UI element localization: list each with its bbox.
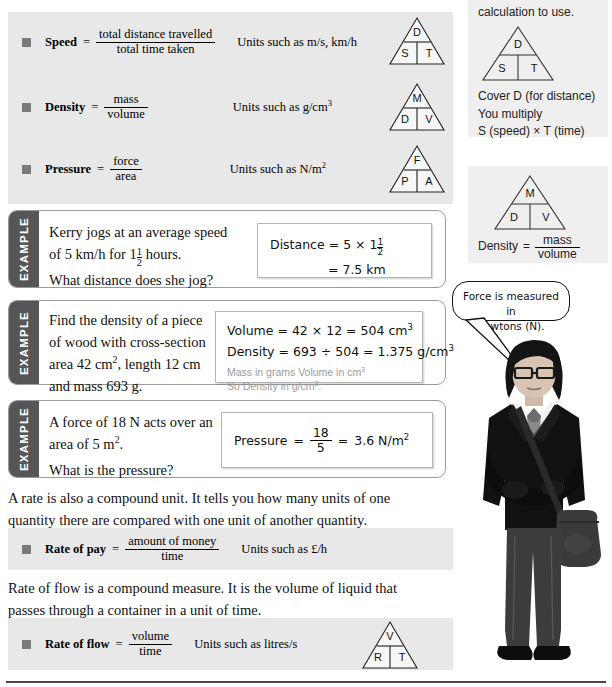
speech-bubble-line1: Force is measured in <box>462 289 560 319</box>
note-text: Mass in grams Volume in cm <box>227 366 361 378</box>
sidebar-note-line2: You multiply <box>478 106 598 123</box>
triangle-label-left: R <box>369 651 387 663</box>
answer-density-text: Density = 693 ÷ 504 = 1.375 g/cm <box>227 345 448 360</box>
answer-result-text: 3.6 N/m <box>354 433 404 448</box>
formula-name-speed: Speed <box>45 35 77 50</box>
equals-sign: = <box>83 35 90 50</box>
question-line-post: . <box>120 436 124 452</box>
triangle-label-right: V <box>420 113 438 125</box>
units-pressure-text: Units such as N/m <box>230 163 322 177</box>
fraction-denominator: 2 <box>377 247 383 257</box>
formula-row-speed: Speed = total distance travelled total t… <box>22 18 442 66</box>
formula-name-rate-of-pay: Rate of pay <box>45 542 106 557</box>
sidebar-hint-speed: calculation to use. D S T Cover D (for d… <box>468 0 608 137</box>
question-line: Kerry jogs at an average speed <box>49 221 249 243</box>
sidebar-hint-density: M D V Density = mass volume <box>468 166 608 263</box>
example-tab-label: EXAMPLE <box>18 217 30 281</box>
formula-fraction-rate-of-pay: amount of money time <box>125 535 219 562</box>
answer-exponent: 3 <box>407 322 412 332</box>
example-block-pressure: EXAMPLE A force of 18 N acts over an are… <box>8 400 446 478</box>
example-answer-pressure: Pressure = 18 5 = 3.6 N/m2 <box>221 412 433 468</box>
fraction-denominator: 5 <box>310 440 332 454</box>
formula-fraction-speed: total distance travelled total time take… <box>96 28 215 55</box>
question-line: of 5 km/h for 112 hours. <box>49 243 249 269</box>
answer-note-line1: Mass in grams Volume in cm3 <box>227 365 411 379</box>
fraction-denominator: area <box>110 169 142 183</box>
triangle-formula-vrt: V R T <box>361 620 419 670</box>
formula-row-rate-of-pay: Rate of pay = amount of money time Units… <box>22 533 442 565</box>
units-density: Units such as g/cm3 <box>233 98 332 115</box>
bottom-divider <box>6 681 606 683</box>
question-line-pre: area 42 cm <box>49 356 113 372</box>
formula-name-density: Density <box>45 100 85 115</box>
paragraph-flow-intro: Rate of flow is a compound measure. It i… <box>8 578 448 622</box>
bullet-square-icon <box>22 640 31 649</box>
units-speed: Units such as m/s, km/h <box>237 35 357 50</box>
paragraph-line: A rate is also a compound unit. It tells… <box>8 488 448 510</box>
question-line: What is the pressure? <box>49 459 249 481</box>
triangle-label-left: P <box>396 175 414 187</box>
question-line: area of 5 m2. <box>49 433 249 455</box>
answer-line: Distance = 5 × 112 <box>270 233 419 258</box>
answer-fraction: 18 5 <box>310 426 332 453</box>
question-line-post: , length 12 cm <box>118 356 201 372</box>
fraction-numerator: amount of money <box>125 535 219 548</box>
note-text: So Density in g/cm <box>227 380 315 392</box>
formula-row-density: Density = mass volume Units such as g/cm… <box>22 88 442 126</box>
triangle-label-right: A <box>420 175 438 187</box>
example-answer-speed: Distance = 5 × 112 = 7.5 km <box>257 223 432 278</box>
fraction-numerator: force <box>110 155 142 168</box>
formula-fraction-density: mass volume <box>104 93 148 120</box>
sidebar-density-fraction: mass volume <box>535 234 580 260</box>
answer-label: Pressure <box>234 433 287 448</box>
bullet-square-icon <box>22 103 31 112</box>
triangle-formula-dst: D S T <box>388 16 446 66</box>
fraction-denominator: time <box>125 549 219 563</box>
triangle-label-right: T <box>420 47 438 59</box>
fraction-denominator: volume <box>535 247 580 261</box>
formula-name-pressure: Pressure <box>45 162 91 177</box>
fraction-denominator: time <box>129 644 173 658</box>
bullet-square-icon <box>22 38 31 47</box>
triangle-hint-dst: D S T <box>480 25 556 83</box>
triangle-label-right: T <box>524 61 544 77</box>
answer-volume-text: Volume = 42 × 12 = 504 cm <box>227 323 407 338</box>
triangle-hint-mdv: M D V <box>492 174 568 232</box>
triangle-label-top: D <box>480 37 556 53</box>
speech-bubble-force: Force is measured in newtons (N). <box>452 281 570 321</box>
triangle-label-left: S <box>396 47 414 59</box>
equals-sign: = <box>97 162 104 177</box>
answer-note-line2: So Density in g/cm3. <box>227 379 411 393</box>
answer-line-result: = 7.5 km <box>328 258 419 281</box>
answer-equals: = <box>293 433 303 448</box>
answer-value: 5 × 1 <box>343 237 377 252</box>
student-illustration <box>455 330 612 680</box>
triangle-label-left: D <box>504 210 524 226</box>
triangle-label-top: F <box>388 154 446 166</box>
units-density-exponent: 3 <box>328 98 332 108</box>
note-exponent: 3 <box>361 365 365 373</box>
answer-line: Density = 693 ÷ 504 = 1.375 g/cm3 <box>227 341 411 362</box>
mixed-fraction: 12 <box>377 235 383 258</box>
fraction-half: 12 <box>377 238 383 257</box>
fraction-numerator: 1 <box>377 238 383 247</box>
units-rate-of-flow: Units such as litres/s <box>194 637 297 652</box>
equals-sign: = <box>91 100 98 115</box>
equals-sign: = <box>116 637 123 652</box>
fraction-numerator: mass <box>535 234 580 247</box>
formula-name-rate-of-flow: Rate of flow <box>45 637 110 652</box>
question-line-post: hours. <box>142 246 181 262</box>
fraction-numerator: volume <box>129 630 173 643</box>
answer-label: Distance <box>270 237 325 252</box>
units-rate-of-pay: Units such as £/h <box>241 542 327 557</box>
example-tab-label: EXAMPLE <box>18 311 30 375</box>
formula-row-pressure: Pressure = force area Units such as N/m2 <box>22 150 442 188</box>
fraction-numerator: mass <box>104 93 148 106</box>
example-tab: EXAMPLE <box>9 401 39 477</box>
formula-fraction-pressure: force area <box>110 155 142 182</box>
sidebar-density-equals: = <box>523 238 530 255</box>
example-question-speed: Kerry jogs at an average speed of 5 km/h… <box>49 221 249 291</box>
sidebar-density-label: Density <box>478 238 518 255</box>
sidebar-hint-text: calculation to use. <box>478 4 598 21</box>
example-answer-density: Volume = 42 × 12 = 504 cm3 Density = 693… <box>215 311 423 383</box>
